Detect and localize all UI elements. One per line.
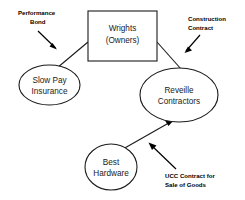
label-ucc-contract-line1: UCC Contract for <box>165 172 215 179</box>
arrow-ucc-contract <box>151 145 177 170</box>
edge-wrights-to-reveille <box>157 42 181 69</box>
node-slow-pay-insurance-label-line2: Insurance <box>32 87 68 96</box>
label-performance-bond-line1: Performance <box>18 9 56 16</box>
node-reveille-contractors-label-line2: Contractors <box>158 97 200 106</box>
diagram-svg: Wrights (Owners) Slow Pay Insurance Reve… <box>0 0 245 200</box>
label-construction-contract-line1: Construction <box>188 15 226 22</box>
arrowhead-construction-contract <box>185 47 193 54</box>
node-reveille-contractors-shape <box>140 68 218 122</box>
node-best-hardware-label-line2: Hardware <box>93 169 129 178</box>
diagram-canvas: Wrights (Owners) Slow Pay Insurance Reve… <box>0 0 245 200</box>
label-performance-bond-line2: Bond <box>30 18 46 25</box>
node-wrights-label-line2: (Owners) <box>106 36 140 45</box>
label-construction-contract-line2: Contract <box>188 24 213 31</box>
node-reveille-contractors-label-line1: Reveille <box>164 86 194 95</box>
node-best-hardware-label-line1: Best <box>103 158 120 167</box>
node-slow-pay-insurance-label-line1: Slow Pay <box>32 76 67 85</box>
node-wrights-label-line1: Wrights <box>109 24 137 33</box>
node-best-hardware-shape <box>85 144 137 190</box>
node-slow-pay-insurance-shape <box>19 65 80 105</box>
edge-wrights-to-slow-pay <box>57 42 88 68</box>
label-ucc-contract-line2: Sale of Goods <box>165 181 207 188</box>
